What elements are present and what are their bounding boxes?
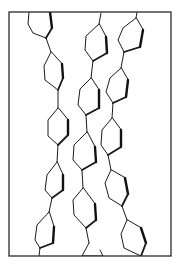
single-bond (112, 103, 113, 118)
ring-edge-bold (108, 147, 121, 155)
ring-edge-bold (140, 30, 143, 47)
ring-edge-bold (95, 147, 96, 162)
chains-group (28, 12, 146, 256)
ring-edge-bold (95, 204, 96, 220)
ring-edge-bold (93, 53, 107, 61)
single-bond (49, 198, 52, 212)
single-bond (46, 38, 51, 52)
ring-edge-bold (58, 135, 68, 145)
ring-edge-bold (86, 220, 96, 228)
ring-edge-bold (52, 190, 63, 198)
single-bond (82, 170, 83, 188)
ring-edge-bold (58, 78, 63, 90)
ring-edge-bold (124, 47, 140, 52)
single-bond (86, 115, 87, 132)
benzene-ring (35, 212, 54, 248)
ring-edge-bold (126, 80, 128, 97)
diagram-canvas (0, 0, 179, 264)
ring-edge-bold (141, 243, 146, 256)
ring-edge-bold (113, 97, 126, 103)
ring-edge-bold (125, 178, 128, 194)
ring-edge-bold (62, 64, 63, 78)
left-chain (28, 12, 68, 256)
ring-edge-bold (46, 28, 52, 38)
single-bond (99, 13, 101, 24)
ring-edge-bold (106, 37, 107, 53)
single-bond (39, 248, 40, 256)
single-bond (122, 206, 127, 220)
ring-edge-bold (141, 228, 146, 243)
ring-edge-bold (82, 162, 96, 170)
benzene-ring (82, 243, 103, 256)
benzene-ring (48, 108, 68, 145)
ring-edge-bold (86, 108, 99, 115)
ring-edge-bold (40, 243, 53, 248)
ring-edge-bold (122, 194, 128, 206)
single-bond (57, 145, 58, 162)
single-bond (91, 61, 93, 78)
single-bond (86, 228, 89, 243)
frame-border (9, 12, 171, 256)
ring-edge-bold (50, 12, 52, 28)
ring-edge-bold (53, 227, 54, 243)
single-bond (136, 12, 137, 18)
polyphenylene-diagram (0, 0, 179, 264)
single-bond (121, 52, 124, 68)
single-bond (108, 155, 111, 170)
